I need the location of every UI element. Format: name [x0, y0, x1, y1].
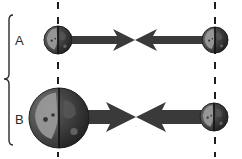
force-arrow-right-b: [86, 102, 136, 132]
gravity-diagram: [0, 0, 242, 159]
force-arrow-left-b: [136, 102, 202, 132]
row-label-b: B: [15, 113, 24, 126]
force-arrow-left-a: [135, 29, 203, 51]
curly-brace-icon: [4, 15, 13, 145]
brace: [4, 15, 13, 145]
force-arrows: [70, 29, 203, 132]
row-label-a: A: [15, 34, 24, 47]
force-arrow-right-a: [70, 29, 135, 51]
